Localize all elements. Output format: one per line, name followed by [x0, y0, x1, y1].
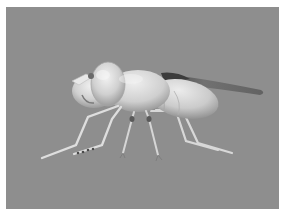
legs-middle — [123, 111, 158, 155]
legs-front — [42, 106, 121, 158]
compound-eye — [91, 62, 125, 106]
render-viewport — [6, 7, 279, 209]
fly-render — [6, 7, 279, 209]
leg-joints — [130, 116, 152, 122]
